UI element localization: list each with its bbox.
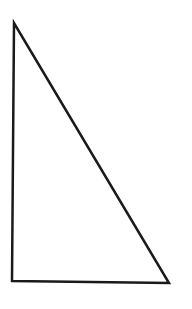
diagram-canvas — [0, 0, 192, 309]
triangle-diagram — [0, 0, 192, 309]
right-triangle-shape — [12, 23, 169, 283]
